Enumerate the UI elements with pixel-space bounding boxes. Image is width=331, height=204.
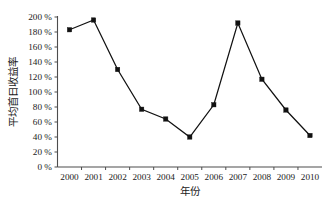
y-axis-tick-label: 180 % [28,27,52,37]
x-axis-title: 年份 [180,185,201,197]
x-axis-tick-label: 2001 [84,172,103,182]
y-axis-tick-label: 0 % [37,162,52,172]
chart-container: 0 %20 %40 %60 %80 %100 %120 %140 %160 %1… [0,0,331,204]
y-axis-tick-label: 200 % [28,12,52,22]
data-point-marker[interactable] [164,117,168,121]
x-axis-tick-label: 2000 [60,172,79,182]
data-point-marker[interactable] [115,67,119,71]
x-axis-tick-label: 2009 [277,172,296,182]
data-point-marker[interactable] [284,108,288,112]
data-point-marker[interactable] [188,135,192,139]
line-chart: 0 %20 %40 %60 %80 %100 %120 %140 %160 %1… [0,0,331,204]
x-axis-tick-label: 2005 [181,172,200,182]
x-axis-tick-label: 2004 [157,172,176,182]
y-axis-title: 平均首日收益率 [7,57,19,127]
x-axis-tick-label: 2010 [301,172,320,182]
x-axis-tick-label: 2003 [132,172,151,182]
data-point-marker[interactable] [260,77,264,81]
y-axis-tick-label: 140 % [28,57,52,67]
data-point-marker[interactable] [236,21,240,25]
y-axis-tick-label: 100 % [28,87,52,97]
x-axis-tick-label: 2006 [205,172,224,182]
x-axis-tick-label: 2008 [253,172,272,182]
y-axis-tick-label: 20 % [33,147,52,157]
data-point-marker[interactable] [308,133,312,137]
data-point-marker[interactable] [212,103,216,107]
data-point-marker[interactable] [67,28,71,32]
y-axis-tick-label: 80 % [33,102,52,112]
y-axis-tick-label: 120 % [28,72,52,82]
data-point-marker[interactable] [139,107,143,111]
y-axis-tick-label: 160 % [28,42,52,52]
data-point-marker[interactable] [91,18,95,22]
x-axis-tick-label: 2002 [108,172,127,182]
y-axis-tick-label: 60 % [33,117,52,127]
x-axis-tick-label: 2007 [229,172,248,182]
y-axis-tick-label: 40 % [33,132,52,142]
